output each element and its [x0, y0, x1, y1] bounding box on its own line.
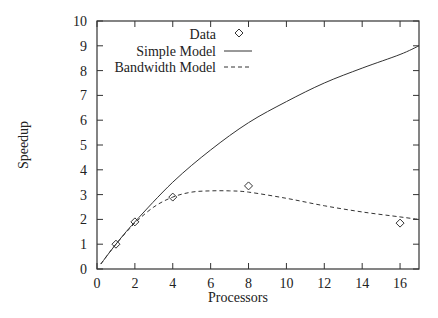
x-tick-label: 6	[207, 276, 214, 291]
data-point-marker	[245, 182, 253, 190]
x-tick-label: 12	[317, 276, 331, 291]
simple-model-line	[101, 46, 419, 264]
legend-data-label: Data	[190, 27, 217, 42]
y-tick-label: 4	[80, 163, 87, 178]
data-point-marker	[396, 219, 404, 227]
legend: Data Simple Model Bandwidth Model	[115, 27, 253, 75]
y-tick-label: 5	[80, 138, 87, 153]
y-tick-label: 2	[80, 212, 87, 227]
y-tick-label: 7	[80, 88, 87, 103]
y-tick-label: 0	[80, 262, 87, 277]
y-axis-label: Speedup	[16, 121, 31, 169]
x-tick-label: 8	[245, 276, 252, 291]
y-tick-label: 9	[80, 39, 87, 54]
speedup-chart: 0246810121416012345678910 Processors Spe…	[0, 0, 438, 318]
x-tick-label: 14	[355, 276, 369, 291]
x-tick-label: 10	[279, 276, 293, 291]
y-tick-label: 10	[73, 14, 87, 29]
legend-bandwidth-label: Bandwidth Model	[115, 60, 217, 75]
y-tick-label: 3	[80, 188, 87, 203]
plot-area: 0246810121416012345678910	[73, 14, 419, 291]
y-tick-label: 6	[80, 113, 87, 128]
x-tick-label: 4	[169, 276, 176, 291]
x-tick-label: 2	[131, 276, 138, 291]
bandwidth-model-line	[101, 191, 419, 264]
x-tick-label: 16	[393, 276, 407, 291]
legend-simple-label: Simple Model	[136, 44, 216, 59]
legend-diamond-icon	[235, 29, 243, 37]
x-tick-label: 0	[94, 276, 101, 291]
y-tick-label: 8	[80, 64, 87, 79]
x-axis-label: Processors	[208, 290, 268, 305]
y-tick-label: 1	[80, 237, 87, 252]
